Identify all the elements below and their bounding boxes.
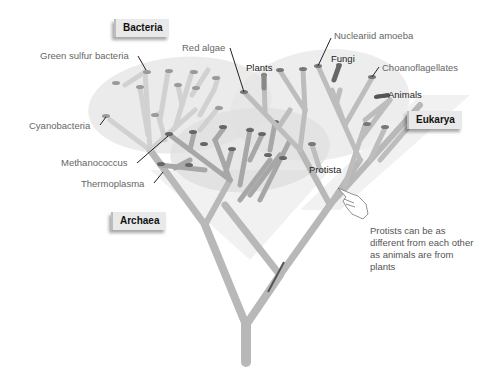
animals-branch bbox=[376, 95, 388, 97]
tree-of-life-diagram: Bacteria Eukarya Archaea Green sulfur ba… bbox=[0, 0, 492, 383]
label-plants: Plants bbox=[246, 62, 272, 73]
label-choanoflagellates: Choanoflagellates bbox=[382, 62, 458, 73]
label-thermoplasma: Thermoplasma bbox=[81, 178, 144, 189]
label-methanococcus: Methanococcus bbox=[61, 157, 128, 168]
label-nucleariid-amoeba: Nucleariid amoeba bbox=[334, 30, 413, 41]
label-fungi: Fungi bbox=[331, 53, 355, 64]
label-green-sulfur-bacteria: Green sulfur bacteria bbox=[40, 50, 129, 61]
domain-label-eukarya: Eukarya bbox=[407, 111, 462, 129]
label-cyanobacteria: Cyanobacteria bbox=[29, 120, 90, 131]
label-red-algae: Red algae bbox=[182, 42, 225, 53]
domain-label-bacteria: Bacteria bbox=[114, 19, 169, 37]
domain-label-archaea: Archaea bbox=[111, 212, 166, 230]
protists-note: Protists can be as different from each o… bbox=[370, 225, 480, 273]
label-protista: Protista bbox=[309, 164, 341, 175]
label-animals: Animals bbox=[388, 89, 422, 100]
